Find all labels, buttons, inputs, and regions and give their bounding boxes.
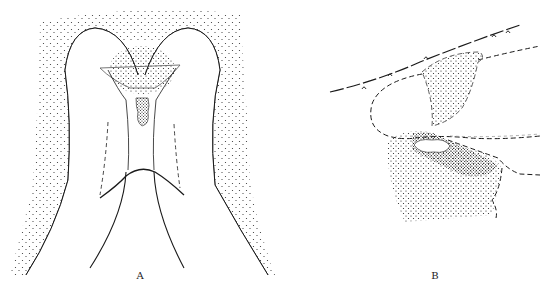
panel-b: [330, 25, 540, 222]
panel-b-cavity: [414, 140, 450, 153]
panel-b-upper-wedge: [422, 52, 483, 126]
panel-a: [10, 10, 275, 276]
panel-b-inner-dashed: [450, 134, 540, 137]
illustration-svg: [0, 0, 548, 300]
panel-label-a: A: [136, 270, 143, 281]
figure: A B: [0, 0, 548, 300]
panel-b-right-dashed: [478, 46, 540, 60]
panel-label-b: B: [431, 270, 438, 281]
panel-a-dense-region: [109, 46, 175, 94]
panel-b-surface-line: [330, 25, 520, 92]
